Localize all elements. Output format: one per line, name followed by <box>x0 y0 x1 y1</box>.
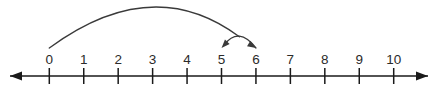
tick-label-3: 3 <box>149 52 157 67</box>
jump-arcs-group <box>49 7 256 48</box>
tick-label-6: 6 <box>252 52 260 67</box>
tick-labels-group: 012345678910 <box>46 52 402 67</box>
tick-label-0: 0 <box>46 52 54 67</box>
tick-label-9: 9 <box>356 52 364 67</box>
tick-label-8: 8 <box>321 52 329 67</box>
tick-label-4: 4 <box>183 52 191 67</box>
tick-label-7: 7 <box>287 52 295 67</box>
jump-zero-to-six-path <box>49 7 239 48</box>
number-line-figure: 012345678910 <box>0 0 438 92</box>
tick-label-1: 1 <box>80 52 88 67</box>
number-line-canvas: 012345678910 <box>0 0 438 92</box>
tick-label-5: 5 <box>218 52 226 67</box>
axis-right-arrowhead <box>416 71 428 80</box>
axis-left-arrowhead <box>10 71 22 80</box>
tick-label-10: 10 <box>386 52 401 67</box>
axis-group <box>10 71 428 80</box>
tick-label-2: 2 <box>114 52 122 67</box>
